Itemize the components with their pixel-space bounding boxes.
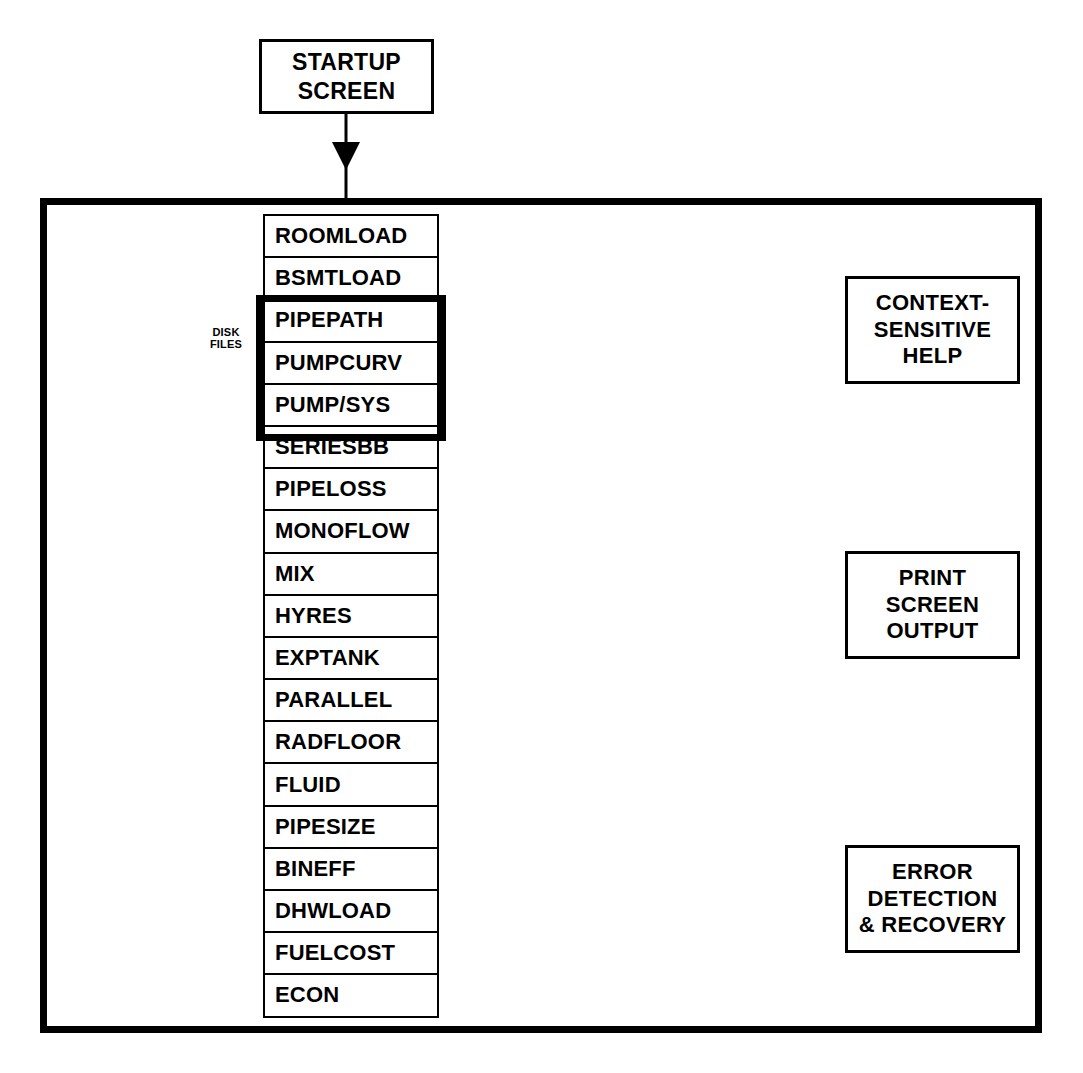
menu-item[interactable]: MIX <box>263 552 439 596</box>
menu-item[interactable]: RADFLOOR <box>263 720 439 764</box>
menu-item-label: BINEFF <box>275 856 356 882</box>
menu-item-label: PARALLEL <box>275 687 392 713</box>
menu-item-label: PIPELOSS <box>275 476 387 502</box>
menu-item[interactable]: ROOMLOAD <box>263 214 439 258</box>
disk-files-label: DISK FILES <box>196 327 256 351</box>
menu-item[interactable]: DHWLOAD <box>263 889 439 933</box>
menu-item-label: RADFLOOR <box>275 729 401 755</box>
error-detection-recovery-label: ERROR DETECTION & RECOVERY <box>859 859 1007 939</box>
menu-item-label: HYRES <box>275 603 352 629</box>
menu-item-label: ECON <box>275 982 339 1008</box>
menu-item[interactable]: FUELCOST <box>263 931 439 975</box>
help-line-2: SENSITIVE <box>874 317 992 342</box>
main-menu-list[interactable]: ROOMLOADBSMTLOADPIPEPATHPUMPCURVPUMP/SYS… <box>263 214 439 1018</box>
menu-item-label: PIPESIZE <box>275 814 376 840</box>
startup-line-1: STARTUP <box>292 49 401 75</box>
print-screen-output-box: PRINT SCREEN OUTPUT <box>845 551 1020 659</box>
menu-item[interactable]: HYRES <box>263 594 439 638</box>
help-line-3: HELP <box>903 343 963 368</box>
startup-line-2: SCREEN <box>298 78 396 104</box>
disk-files-line-1: DISK <box>212 326 239 338</box>
menu-item[interactable]: PIPESIZE <box>263 805 439 849</box>
menu-item[interactable]: PIPEPATH <box>263 298 439 342</box>
error-detection-recovery-box: ERROR DETECTION & RECOVERY <box>845 845 1020 953</box>
print-line-3: OUTPUT <box>886 618 978 643</box>
print-screen-output-label: PRINT SCREEN OUTPUT <box>886 565 980 645</box>
menu-item[interactable]: FLUID <box>263 762 439 806</box>
disk-files-line-2: FILES <box>210 338 242 350</box>
menu-item[interactable]: ECON <box>263 973 439 1017</box>
menu-item[interactable]: BINEFF <box>263 847 439 891</box>
error-line-1: ERROR <box>892 859 973 884</box>
menu-item-label: ROOMLOAD <box>275 223 407 249</box>
help-line-1: CONTEXT- <box>876 290 990 315</box>
error-line-2: DETECTION <box>868 886 998 911</box>
menu-item[interactable]: PUMPCURV <box>263 341 439 385</box>
menu-item[interactable]: BSMTLOAD <box>263 256 439 300</box>
context-sensitive-help-label: CONTEXT- SENSITIVE HELP <box>874 290 992 370</box>
menu-item-label: EXPTANK <box>275 645 380 671</box>
context-sensitive-help-box: CONTEXT- SENSITIVE HELP <box>845 276 1020 384</box>
menu-item-label: FLUID <box>275 772 341 798</box>
menu-item-label: DHWLOAD <box>275 898 391 924</box>
print-line-2: SCREEN <box>886 592 980 617</box>
menu-item-label: MONOFLOW <box>275 518 410 544</box>
menu-item[interactable]: EXPTANK <box>263 636 439 680</box>
menu-item-label: MIX <box>275 561 315 587</box>
error-line-3: & RECOVERY <box>859 912 1007 937</box>
startup-screen-label: STARTUP SCREEN <box>292 48 401 104</box>
menu-item-label: FUELCOST <box>275 940 395 966</box>
menu-item[interactable]: PIPELOSS <box>263 467 439 511</box>
menu-item[interactable]: PUMP/SYS <box>263 383 439 427</box>
diagram-canvas: STARTUP SCREEN <box>0 0 1083 1073</box>
menu-item[interactable]: MONOFLOW <box>263 509 439 553</box>
menu-item-label: SERIESBB <box>275 434 389 460</box>
menu-item-label: PUMPCURV <box>275 350 402 376</box>
startup-to-frame-connector <box>332 114 360 198</box>
startup-screen-box: STARTUP SCREEN <box>259 39 434 114</box>
print-line-1: PRINT <box>899 565 967 590</box>
menu-item-label: PUMP/SYS <box>275 392 390 418</box>
menu-item[interactable]: PARALLEL <box>263 678 439 722</box>
menu-item[interactable]: SERIESBB <box>263 425 439 469</box>
menu-item-label: BSMTLOAD <box>275 265 401 291</box>
menu-item-label: PIPEPATH <box>275 307 383 333</box>
